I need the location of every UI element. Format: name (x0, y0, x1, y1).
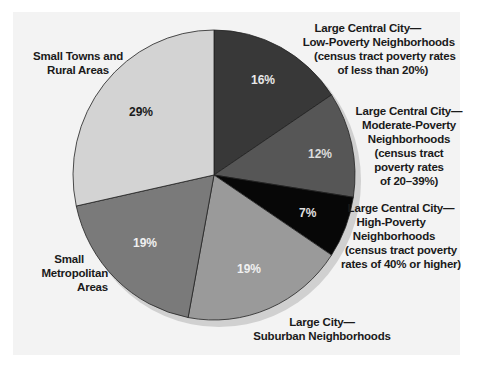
label-low-poverty: Large Central City— Low-Poverty Neighbor… (290, 21, 456, 77)
percent-low-poverty: 16% (251, 73, 275, 87)
percent-rural: 29% (129, 105, 153, 119)
label-high-poverty: Large Central City— High-Poverty Neighbo… (334, 201, 468, 271)
percent-moderate-poverty: 12% (308, 147, 332, 161)
label-moderate-poverty: Large Central City— Moderate-Poverty Nei… (352, 104, 466, 188)
percent-small-metro: 19% (133, 236, 157, 250)
label-rural: Small Towns and Rural Areas (22, 49, 134, 77)
label-small-metro: Small Metropolitan Areas (28, 252, 108, 294)
label-suburban: Large City— Suburban Neighborhoods (252, 315, 392, 343)
percent-suburban: 19% (237, 262, 261, 276)
percent-high-poverty: 7% (299, 206, 316, 220)
